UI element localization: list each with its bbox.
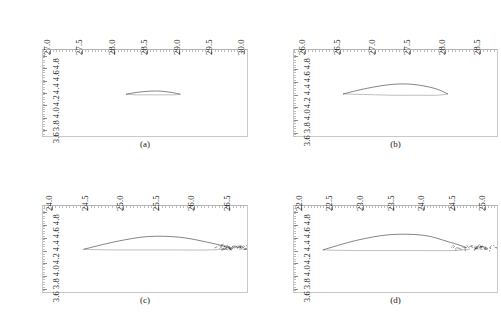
x-tick-label: 27.0: [367, 39, 377, 55]
y-major-tick: [43, 225, 47, 226]
x-minor-tick: [427, 50, 428, 52]
x-minor-tick: [350, 50, 351, 52]
y-major-tick: [294, 120, 298, 121]
y-minor-tick: [43, 134, 45, 135]
panel-b: (b) 26.026.527.027.528.028.53.63.84.04.2…: [251, 0, 501, 158]
y-minor-tick: [294, 267, 296, 268]
y-minor-tick: [43, 259, 45, 260]
y-minor-tick: [43, 269, 45, 270]
y-minor-tick: [43, 99, 45, 100]
x-minor-tick: [436, 206, 437, 208]
x-minor-tick: [169, 206, 170, 208]
y-minor-tick: [294, 126, 296, 127]
x-minor-tick: [452, 50, 453, 52]
x-minor-tick: [445, 206, 446, 208]
y-minor-tick: [294, 136, 296, 137]
y-tick-label: 4.6: [302, 227, 312, 238]
y-minor-tick: [294, 116, 296, 117]
x-minor-tick: [56, 50, 57, 52]
x-minor-tick: [224, 50, 225, 52]
panel-caption-b: (b): [293, 139, 498, 149]
y-minor-tick: [294, 128, 296, 129]
x-tick-label: 23.5: [386, 195, 396, 211]
x-minor-tick: [427, 206, 428, 208]
x-minor-tick: [338, 206, 339, 208]
x-minor-tick: [92, 50, 93, 52]
x-minor-tick: [221, 50, 222, 52]
x-tick-label: 27.5: [74, 39, 84, 55]
y-minor-tick: [43, 287, 45, 288]
y-major-tick: [43, 289, 47, 290]
y-minor-tick: [294, 284, 296, 285]
x-minor-tick: [308, 206, 309, 208]
y-minor-tick: [294, 274, 296, 275]
y-minor-tick: [43, 233, 45, 234]
y-minor-tick: [43, 218, 45, 219]
x-tick-label: 28.5: [139, 39, 149, 55]
trajectory-curve: [84, 236, 230, 249]
panel-caption-c: (c): [42, 295, 248, 305]
x-minor-tick: [384, 206, 385, 208]
y-tick-label: 4.4: [302, 240, 312, 251]
y-tick-label: 4.8: [302, 58, 312, 69]
y-minor-tick: [294, 246, 296, 247]
y-minor-tick: [294, 221, 296, 222]
x-tick-label: 26.5: [332, 39, 342, 55]
y-major-tick: [294, 82, 298, 83]
x-minor-tick: [127, 50, 128, 52]
y-minor-tick: [294, 85, 296, 86]
x-minor-tick: [326, 50, 327, 52]
y-minor-tick: [43, 62, 45, 63]
x-tick-label: 29.0: [172, 39, 182, 55]
y-minor-tick: [43, 102, 45, 103]
y-major-tick: [294, 133, 298, 134]
x-minor-tick: [317, 206, 318, 208]
x-minor-tick: [69, 206, 70, 208]
x-minor-tick: [483, 50, 484, 52]
x-minor-tick: [98, 50, 99, 52]
x-minor-tick: [234, 50, 235, 52]
panel-c: (c) 24.024.525.025.526.026.53.63.84.04.2…: [0, 156, 250, 314]
y-minor-tick: [43, 254, 45, 255]
y-major-tick: [294, 251, 298, 252]
x-minor-tick: [314, 206, 315, 208]
y-minor-tick: [294, 118, 296, 119]
x-minor-tick: [399, 50, 400, 52]
x-minor-tick: [148, 206, 149, 208]
plot-area-b: [294, 50, 497, 136]
trajectory-curve: [126, 94, 180, 95]
y-minor-tick: [43, 244, 45, 245]
y-major-tick: [294, 289, 298, 290]
x-tick-label: 27.5: [402, 39, 412, 55]
x-minor-tick: [198, 50, 199, 52]
y-minor-tick: [43, 60, 45, 61]
x-minor-tick: [347, 50, 348, 52]
y-tick-label: 4.0: [302, 109, 312, 120]
x-minor-tick: [98, 206, 99, 208]
y-minor-tick: [294, 88, 296, 89]
y-tick-label: 4.4: [51, 83, 61, 94]
x-minor-tick: [304, 206, 305, 208]
y-minor-tick: [294, 98, 296, 99]
x-minor-tick: [357, 50, 358, 52]
y-minor-tick: [43, 121, 45, 122]
x-minor-tick: [140, 206, 141, 208]
x-minor-tick: [201, 206, 202, 208]
x-minor-tick: [329, 50, 330, 52]
y-minor-tick: [43, 111, 45, 112]
y-minor-tick: [43, 124, 45, 125]
y-major-tick: [294, 276, 298, 277]
x-minor-tick: [55, 206, 56, 208]
x-minor-tick: [473, 206, 474, 208]
x-tick-label: 28.5: [472, 39, 482, 55]
x-minor-tick: [59, 50, 60, 52]
y-minor-tick: [43, 221, 45, 222]
x-minor-tick: [219, 206, 220, 208]
y-minor-tick: [294, 77, 296, 78]
y-minor-tick: [43, 97, 45, 98]
y-tick-label: 4.4: [51, 240, 61, 251]
x-minor-tick: [417, 50, 418, 52]
plot-area-c: [43, 206, 247, 292]
x-minor-tick: [312, 50, 313, 52]
x-minor-tick: [322, 50, 323, 52]
